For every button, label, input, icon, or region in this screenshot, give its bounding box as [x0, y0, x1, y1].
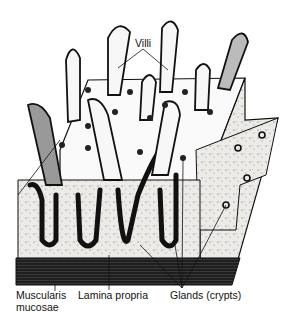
muscularis-mucosae-label-line1: Muscularis [16, 289, 76, 301]
lamina-propria-label: Lamina propria [78, 289, 148, 301]
muscularis-mucosae-label: Muscularis mucosae [16, 289, 76, 313]
villi-label: Villi [135, 37, 151, 49]
lamina-propria-face [18, 180, 200, 260]
muscularis-mucosae-band [16, 258, 240, 285]
muscularis-mucosae-label-line2: mucosae [16, 301, 76, 313]
glands-crypts-label: Glands (crypts) [170, 289, 241, 301]
